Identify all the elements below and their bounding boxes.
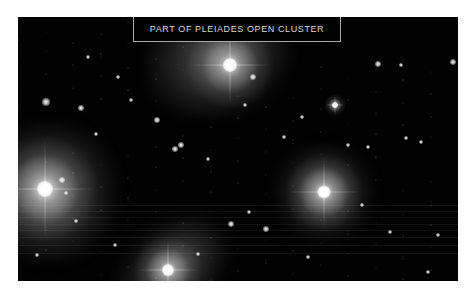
small-star: [404, 136, 408, 140]
faint-star: [73, 153, 74, 154]
faint-star: [100, 187, 101, 188]
small-star: [399, 63, 403, 67]
faint-star: [293, 273, 294, 274]
faint-star: [320, 66, 321, 67]
small-star: [243, 103, 247, 107]
faint-star: [45, 96, 46, 97]
faint-star: [183, 47, 184, 48]
faint-star: [403, 60, 404, 61]
faint-star: [128, 266, 129, 267]
faint-star: [375, 69, 376, 70]
faint-star: [375, 267, 376, 268]
faint-star: [320, 109, 321, 110]
faint-star: [45, 31, 46, 32]
faint-star: [238, 138, 239, 139]
faint-star: [348, 276, 349, 277]
faint-star: [348, 77, 349, 78]
faint-star: [320, 43, 321, 44]
faint-star: [128, 155, 129, 156]
faint-star: [238, 49, 239, 50]
faint-star: [128, 201, 129, 202]
small-star: [64, 191, 68, 195]
faint-star: [73, 173, 74, 174]
faint-star: [183, 269, 184, 270]
faint-star: [210, 257, 211, 258]
faint-star: [348, 233, 349, 234]
small-star: [178, 142, 184, 148]
small-star: [375, 61, 381, 67]
faint-star: [375, 244, 376, 245]
small-star: [113, 243, 117, 247]
small-star: [86, 55, 90, 59]
faint-star: [348, 100, 349, 101]
faint-star: [375, 114, 376, 115]
faint-star: [155, 101, 156, 102]
faint-star: [320, 89, 321, 90]
faint-star: [155, 189, 156, 190]
faint-star: [100, 275, 101, 276]
small-star: [282, 135, 286, 139]
faint-star: [128, 178, 129, 179]
faint-star: [128, 45, 129, 46]
faint-star: [210, 169, 211, 170]
faint-star: [265, 259, 266, 260]
faint-star: [265, 174, 266, 175]
caption-text: PART OF PLEIADES OPEN CLUSTER: [150, 24, 324, 34]
faint-star: [320, 219, 321, 220]
small-star: [247, 210, 251, 214]
faint-star: [430, 71, 431, 72]
faint-star: [293, 163, 294, 164]
faint-star: [128, 67, 129, 68]
faint-star: [18, 40, 19, 41]
faint-star: [18, 82, 19, 83]
faint-star: [100, 56, 101, 57]
small-star: [172, 146, 178, 152]
faint-star: [430, 247, 431, 248]
faint-star: [73, 65, 74, 66]
faint-star: [45, 51, 46, 52]
faint-star: [210, 237, 211, 238]
faint-star: [100, 252, 101, 253]
faint-star: [403, 80, 404, 81]
faint-star: [128, 220, 129, 221]
faint-star: [210, 191, 211, 192]
faint-star: [155, 58, 156, 59]
faint-star: [238, 72, 239, 73]
bright-star-mid-right: [332, 102, 338, 108]
faint-star: [430, 182, 431, 183]
small-star: [129, 98, 133, 102]
small-star: [206, 157, 210, 161]
bright-star-left-spike: [18, 189, 95, 190]
faint-star: [210, 149, 211, 150]
faint-star: [183, 135, 184, 136]
small-star: [436, 233, 440, 237]
faint-star: [18, 105, 19, 106]
faint-star: [320, 242, 321, 243]
faint-star: [403, 125, 404, 126]
faint-star: [73, 195, 74, 196]
pleiades-photo: [18, 17, 458, 281]
small-star: [450, 59, 456, 65]
faint-star: [430, 136, 431, 137]
image-caption: PART OF PLEIADES OPEN CLUSTER: [133, 17, 341, 42]
faint-star: [45, 229, 46, 230]
small-star: [306, 255, 310, 259]
faint-star: [238, 183, 239, 184]
faint-star: [73, 176, 74, 177]
faint-star: [348, 123, 349, 124]
small-star: [196, 252, 200, 256]
faint-star: [18, 85, 19, 86]
faint-star: [403, 213, 404, 214]
faint-star: [293, 143, 294, 144]
faint-star: [45, 162, 46, 163]
small-star: [426, 270, 430, 274]
faint-star: [430, 269, 431, 270]
faint-star: [155, 124, 156, 125]
faint-star: [265, 151, 266, 152]
small-star: [94, 132, 98, 136]
faint-star: [45, 73, 46, 74]
faint-star: [293, 208, 294, 209]
faint-star: [265, 262, 266, 263]
faint-star: [348, 231, 349, 232]
faint-star: [100, 33, 101, 34]
